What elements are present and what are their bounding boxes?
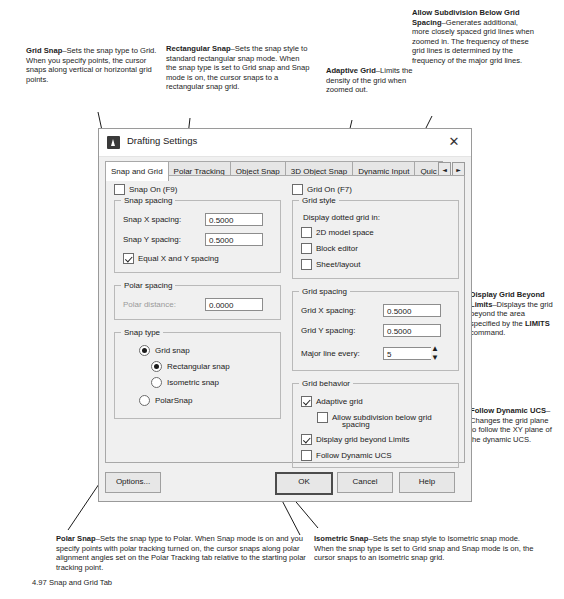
callout-term: Isometric Snap [314,534,368,543]
major-line-input[interactable]: 5 [383,347,431,360]
callout-allow-subdivision: Allow Subdivision Below Grid Spacing–Gen… [412,8,536,66]
autocad-icon [107,136,120,149]
grid-on-checkbox[interactable] [292,184,303,195]
callout-bold-tail: LIMITS [525,319,550,328]
block-editor-label: Block editor [316,244,358,253]
snap-on-row[interactable]: Snap On (F9) [114,184,281,195]
allow-subdivision-checkbox[interactable] [317,412,328,423]
isometric-snap-row[interactable]: Isometric snap [151,377,272,388]
callout-term: Rectangular Snap [166,44,231,53]
grid-spacing-legend: Grid spacing [299,287,350,296]
right-column: Grid On (F7) Grid style Display dotted g… [292,184,459,468]
dialog-titlebar: Drafting Settings ✕ [99,129,471,157]
polar-snap-label: PolarSnap [155,396,192,405]
2d-model-space-label: 2D model space [316,228,374,237]
adaptive-grid-row[interactable]: Adaptive grid [301,396,450,407]
snap-type-legend: Snap type [121,328,163,337]
adaptive-grid-label: Adaptive grid [316,397,363,406]
grid-behavior-group: Grid behavior Adaptive grid Allow subdiv… [292,383,459,468]
snap-type-group: Snap type Grid snap Rectangular snap Iso… [114,332,281,419]
grid-snap-row[interactable]: Grid snap [139,345,272,356]
snap-spacing-legend: Snap spacing [121,196,175,205]
callout-term: Follow Dynamic UCS [470,406,546,415]
major-line-stepper[interactable]: 5 ▲ ▼ [383,344,439,362]
polar-spacing-group: Polar spacing Polar distance: 0.0000 [114,285,281,320]
ok-button[interactable]: OK [275,472,333,495]
callout-term: Grid Snap [26,46,62,55]
block-editor-row[interactable]: Block editor [301,243,450,254]
callout-isometric-snap: Isometric Snap–Sets the snap style to Is… [314,534,540,563]
follow-dynamic-ucs-label: Follow Dynamic UCS [316,451,392,460]
follow-dynamic-ucs-checkbox[interactable] [301,450,312,461]
polar-distance-input[interactable]: 0.0000 [205,298,263,311]
tab-snap-and-grid[interactable]: Snap and Grid [105,161,169,181]
rectangular-snap-row[interactable]: Rectangular snap [151,361,272,372]
snap-y-label: Snap Y spacing: [123,235,205,244]
grid-x-input[interactable]: 0.5000 [383,304,441,317]
drafting-settings-dialog: Drafting Settings ✕ Snap and Grid Polar … [98,128,472,502]
help-button[interactable]: Help [399,472,455,493]
left-column: Snap On (F9) Snap spacing Snap X spacing… [114,184,281,419]
spin-down-icon[interactable]: ▼ [431,353,439,362]
close-icon[interactable]: ✕ [441,131,467,153]
equal-xy-checkbox[interactable] [123,253,134,264]
grid-x-label: Grid X spacing: [301,306,383,315]
snap-on-label: Snap On (F9) [129,185,177,194]
grid-style-legend: Grid style [299,196,339,205]
grid-y-row: Grid Y spacing: 0.5000 [301,324,450,337]
grid-snap-radio[interactable] [139,345,150,356]
display-beyond-limits-checkbox[interactable] [301,434,312,445]
callout-tail: command. [470,328,505,337]
figure-page: Grid Snap–Sets the snap type to Grid. Wh… [0,0,564,599]
grid-y-input[interactable]: 0.5000 [383,324,441,337]
spin-up-icon[interactable]: ▲ [431,344,439,353]
snap-x-row: Snap X spacing: 0.5000 [123,213,272,226]
callout-follow-dynamic-ucs: Follow Dynamic UCS–Changes the grid plan… [470,406,556,444]
grid-behavior-legend: Grid behavior [299,379,353,388]
rectangular-snap-radio[interactable] [151,361,162,372]
polar-snap-radio[interactable] [139,395,150,406]
sheet-layout-row[interactable]: Sheet/layout [301,259,450,270]
snap-x-input[interactable]: 0.5000 [205,213,263,226]
equal-xy-label: Equal X and Y spacing [138,254,219,263]
equal-xy-row[interactable]: Equal X and Y spacing [123,253,272,264]
major-line-row: Major line every: 5 ▲ ▼ [301,344,450,362]
snap-y-row: Snap Y spacing: 0.5000 [123,233,272,246]
polar-spacing-legend: Polar spacing [121,281,175,290]
callout-polar-snap: Polar Snap–Sets the snap type to Polar. … [56,534,328,572]
cancel-button[interactable]: Cancel [337,472,393,493]
grid-snap-label: Grid snap [155,346,190,355]
figure-caption: 4.97 Snap and Grid Tab [32,578,112,587]
dialog-footer: Options... OK Cancel Help [105,472,465,494]
snap-x-label: Snap X spacing: [123,215,205,224]
follow-dynamic-ucs-row[interactable]: Follow Dynamic UCS [301,450,450,461]
tab-panel-snap-and-grid: Snap On (F9) Snap spacing Snap X spacing… [105,175,465,463]
grid-spacing-group: Grid spacing Grid X spacing: 0.5000 Grid… [292,291,459,371]
callout-rectangular-snap: Rectangular Snap–Sets the snap style to … [166,44,312,92]
grid-x-row: Grid X spacing: 0.5000 [301,304,450,317]
dialog-title: Drafting Settings [127,135,197,146]
2d-model-space-row[interactable]: 2D model space [301,227,450,238]
callout-display-grid-beyond-limits: Display Grid Beyond Limits–Displays the … [470,290,556,338]
block-editor-checkbox[interactable] [301,243,312,254]
polar-snap-row[interactable]: PolarSnap [139,395,272,406]
grid-on-label: Grid On (F7) [307,185,352,194]
sheet-layout-label: Sheet/layout [316,260,360,269]
grid-style-group: Grid style Display dotted grid in: 2D mo… [292,200,459,279]
polar-distance-label: Polar distance: [123,300,205,309]
display-beyond-limits-row[interactable]: Display grid beyond Limits [301,434,450,445]
grid-style-subtext: Display dotted grid in: [303,213,450,222]
2d-model-space-checkbox[interactable] [301,227,312,238]
isometric-snap-label: Isometric snap [167,378,219,387]
snap-y-input[interactable]: 0.5000 [205,233,263,246]
sheet-layout-checkbox[interactable] [301,259,312,270]
callout-term: Polar Snap [56,534,96,543]
snap-on-checkbox[interactable] [114,184,125,195]
snap-spacing-group: Snap spacing Snap X spacing: 0.5000 Snap… [114,200,281,273]
grid-on-row[interactable]: Grid On (F7) [292,184,459,195]
major-line-label: Major line every: [301,349,383,358]
options-button[interactable]: Options... [105,472,161,493]
adaptive-grid-checkbox[interactable] [301,396,312,407]
allow-subdivision-row[interactable]: Allow subdivision below grid [317,412,450,423]
isometric-snap-radio[interactable] [151,377,162,388]
